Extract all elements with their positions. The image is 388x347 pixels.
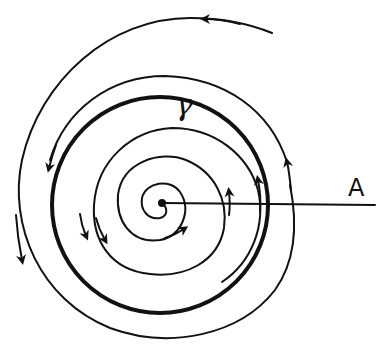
transversal-label: A: [348, 176, 364, 200]
phase-portrait-diagram: [0, 0, 388, 347]
inner-arrow-5: [80, 214, 86, 236]
outer-approach-arrow: [49, 145, 56, 168]
outer-arrow-right: [287, 162, 291, 190]
transversal-line-a: [162, 203, 375, 205]
limit-cycle-label: γ: [175, 90, 193, 120]
equilibrium-point: [158, 199, 166, 207]
inner-trajectory: [94, 128, 260, 282]
inner-arrow-1: [165, 229, 184, 238]
